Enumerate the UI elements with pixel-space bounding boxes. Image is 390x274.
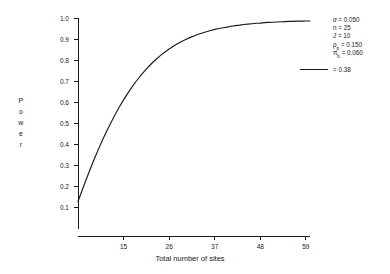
x-axis-tick-label: 15 (111, 243, 137, 250)
y-axis-title: P o w e r (14, 95, 28, 150)
y-axis-title-letter: w (14, 117, 28, 128)
y-axis-tick-label: 0.8 (47, 57, 69, 64)
x-axis-tick-label: 37 (202, 243, 228, 250)
y-axis-ticks (74, 18, 78, 208)
x-axis-tick-label: 48 (247, 243, 273, 250)
legend-param-alpha: α = 0.050 (300, 16, 388, 24)
pi-subscript: b (337, 54, 340, 59)
y-axis-tick-label: 0.9 (47, 36, 69, 43)
legend-series-entry: = 0.38 (300, 66, 388, 75)
y-axis-tick-label: 0.7 (47, 78, 69, 85)
legend-param-rho-p: ρp = 0.150 (300, 41, 388, 49)
legend-param-j: J = 10 (300, 32, 388, 40)
legend: α = 0.050 n = 25 J = 10 ρp = 0.150 πb = … (300, 16, 388, 75)
y-axis-tick-label: 1.0 (47, 15, 69, 22)
x-axis-title: Total number of sites (60, 254, 320, 263)
n-value: n = 25 (333, 24, 351, 31)
legend-series-label: = 0.38 (333, 66, 351, 73)
legend-param-pi-b: πb = 0.060 (300, 49, 388, 57)
y-axis-title-letter: P (14, 95, 28, 106)
y-axis-tick-label: 0.5 (47, 120, 69, 127)
x-axis-ticks (124, 236, 306, 240)
rho-value: = 0.150 (339, 41, 362, 48)
y-axis-tick-label: 0.6 (47, 99, 69, 106)
j-value: = 10 (336, 32, 350, 39)
y-axis-tick-label: 0.2 (47, 183, 69, 190)
alpha-value: = 0.050 (337, 16, 360, 23)
power-curve-figure: P o w e r 0.10.20.30.40.50.60.70.80.91.0… (0, 0, 390, 274)
x-axis-tick-label: 59 (293, 243, 319, 250)
y-axis-tick-label: 0.3 (47, 162, 69, 169)
legend-param-n: n = 25 (300, 24, 388, 32)
pi-value: = 0.060 (340, 49, 363, 56)
y-axis-title-letter: o (14, 106, 28, 117)
legend-line-swatch (300, 69, 328, 70)
power-curve-line (78, 21, 310, 202)
x-axis-tick-label: 26 (156, 243, 182, 250)
y-axis-tick-label: 0.4 (47, 141, 69, 148)
y-axis-title-letter: e (14, 128, 28, 139)
y-axis-title-letter: r (14, 139, 28, 150)
y-axis-tick-label: 0.1 (47, 204, 69, 211)
